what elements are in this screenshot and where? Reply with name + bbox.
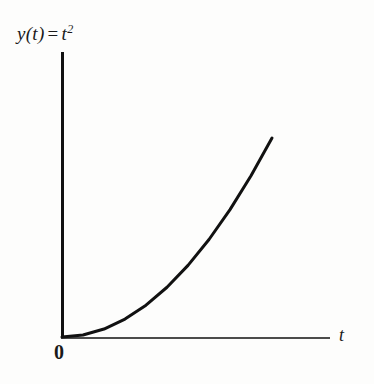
plot-area <box>0 0 374 384</box>
figure-canvas: y(t)=t2 t 0 <box>0 0 374 384</box>
parabola-curve <box>62 138 272 337</box>
x-axis-label: t <box>339 325 344 346</box>
y-axis-label-exponent: 2 <box>67 22 73 36</box>
origin-label: 0 <box>54 341 64 364</box>
y-axis-label-function: y(t) <box>17 23 45 44</box>
y-axis-label-equals: = <box>45 23 62 44</box>
y-axis-label: y(t)=t2 <box>17 22 73 45</box>
